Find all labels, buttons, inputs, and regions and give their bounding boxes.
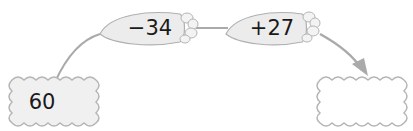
operation-label-1: −34 bbox=[118, 18, 182, 39]
start-value: 60 bbox=[12, 92, 72, 113]
answer-box[interactable] bbox=[317, 77, 407, 126]
operation-label-2: +27 bbox=[240, 18, 304, 39]
connector-start bbox=[55, 34, 100, 82]
